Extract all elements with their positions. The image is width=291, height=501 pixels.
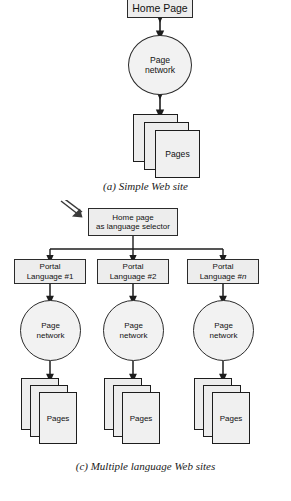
pages-label-2: Pages [130,414,153,423]
page-network-label-1: Page network [36,321,64,340]
pages-sheet-front-2: Pages [122,392,160,444]
pages-sheet-front-1: Pages [39,392,77,444]
pages-label-a: Pages [165,149,189,159]
portal-index-1: 1 [69,272,73,281]
page-network-circle-a[interactable]: Page network [128,35,192,95]
portal-prefix-1: Language # [27,272,69,281]
portal-index-2: 2 [152,272,156,281]
portal-label-line1-2: Portal [123,262,144,271]
portal-box-2[interactable]: Portal Language #2 [97,259,169,284]
pages-label-3: Pages [220,414,243,423]
portal-label-line2-2: Language #2 [110,272,157,281]
page-network-label-3: Page network [209,321,237,340]
page-network-label-a: Page network [145,55,175,75]
portal-label-line1-3: Portal [213,262,234,271]
pages-stack-1[interactable]: Pages [21,378,99,446]
portal-box-3[interactable]: Portal Language #n [187,259,259,284]
home-page-label-a: Home Page [132,2,187,14]
portal-prefix-2: Language # [110,272,152,281]
connector-c-portal-to-network [50,284,223,300]
pages-stack-2[interactable]: Pages [104,378,182,446]
page-network-circle-2[interactable]: Page network [103,300,164,361]
home-page-box-c[interactable]: Home page as language selector [88,208,178,236]
connector-c-network-to-pages [50,361,223,378]
pages-label-1: Pages [47,414,70,423]
page-network-circle-1[interactable]: Page network [20,300,81,361]
figure-canvas: Page network --> Pages --> [0,0,291,501]
portal-box-1[interactable]: Portal Language #1 [14,259,86,284]
portal-label-line1-1: Portal [40,262,61,271]
pages-sheet-front-a: Pages [155,130,200,178]
portal-prefix-3: Language # [200,272,242,281]
home-page-label-line1-c: Home page [112,213,153,222]
portal-label-line2-3: Language #n [200,272,247,281]
pages-stack-a[interactable]: Pages [133,114,213,176]
caption-a: (a) Simple Web site [0,180,291,192]
home-page-label-line2-c: as language selector [96,222,170,231]
portal-index-3: n [242,272,246,281]
pages-stack-3[interactable]: Pages [194,378,272,446]
page-network-circle-3[interactable]: Page network [193,300,254,361]
page-network-label-2: Page network [119,321,147,340]
portal-label-line2-1: Language #1 [27,272,74,281]
pages-sheet-front-3: Pages [212,392,250,444]
caption-c: (c) Multiple language Web sites [0,460,291,472]
connector-c-home-to-bus [50,236,223,259]
home-page-box-a[interactable]: Home Page [127,0,193,18]
